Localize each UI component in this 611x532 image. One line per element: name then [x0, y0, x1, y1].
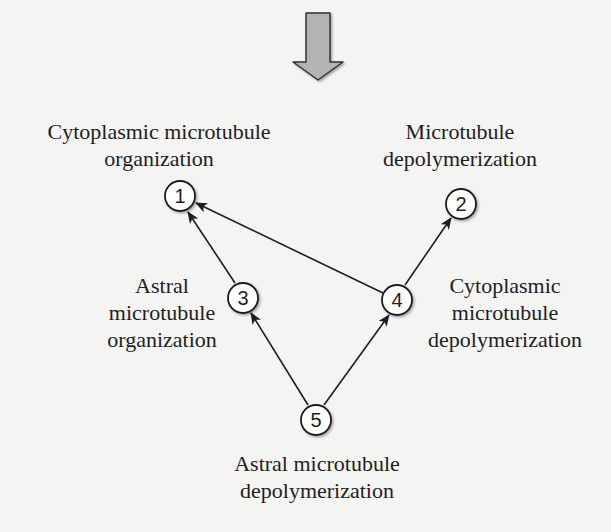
svg-text:5: 5: [310, 409, 321, 431]
down-arrow-icon: [293, 13, 343, 80]
edge-5-to-3: [251, 313, 308, 405]
edge-5-to-4: [324, 315, 389, 405]
edge-4-to-1: [196, 203, 383, 293]
node-5: 5: [301, 405, 331, 435]
label-node-5: Astral microtubule depolymerization: [234, 450, 400, 504]
svg-text:4: 4: [391, 289, 402, 311]
node-1: 1: [165, 181, 195, 211]
label-node-4-line3: depolymerization: [428, 326, 582, 353]
node-4: 4: [382, 285, 412, 315]
node-2: 2: [446, 189, 476, 219]
label-node-4-line1: Cytoplasmic: [428, 272, 582, 299]
label-node-1-line1: Cytoplasmic microtubule: [47, 118, 270, 145]
svg-text:3: 3: [237, 287, 248, 309]
label-node-3-line2: microtubule: [107, 299, 217, 326]
label-node-4-line2: microtubule: [428, 299, 582, 326]
label-node-5-line2: depolymerization: [234, 477, 400, 504]
label-node-2-line1: Microtubule: [383, 118, 537, 145]
label-node-4: Cytoplasmic microtubule depolymerization: [428, 272, 582, 353]
label-node-1-line2: organization: [47, 145, 270, 172]
label-node-1: Cytoplasmic microtubule organization: [47, 118, 270, 172]
label-node-5-line1: Astral microtubule: [234, 450, 400, 477]
svg-text:1: 1: [174, 185, 185, 207]
label-node-3-line1: Astral: [107, 272, 217, 299]
label-node-2-line2: depolymerization: [383, 145, 537, 172]
svg-text:2: 2: [455, 193, 466, 215]
label-node-3: Astral microtubule organization: [107, 272, 217, 353]
label-node-3-line3: organization: [107, 326, 217, 353]
node-3: 3: [228, 283, 258, 313]
label-node-2: Microtubule depolymerization: [383, 118, 537, 172]
